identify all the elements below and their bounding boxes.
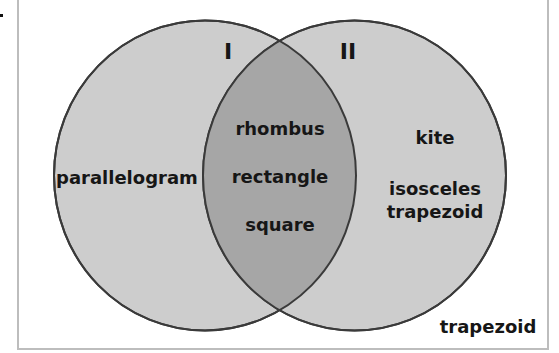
right-only-item-trapezoid: trapezoid: [380, 201, 490, 223]
intersection-item-rectangle: rectangle: [220, 166, 340, 188]
set-2-label: II: [336, 41, 360, 63]
intersection-item-rhombus: rhombus: [220, 118, 340, 140]
left-only-item: parallelogram: [56, 167, 196, 189]
right-only-item-kite: kite: [395, 127, 475, 149]
set-1-label: I: [222, 41, 234, 63]
intersection-item-square: square: [220, 214, 340, 236]
outside-item-trapezoid: trapezoid: [438, 316, 538, 338]
right-only-item-isosceles: isosceles: [380, 178, 490, 200]
